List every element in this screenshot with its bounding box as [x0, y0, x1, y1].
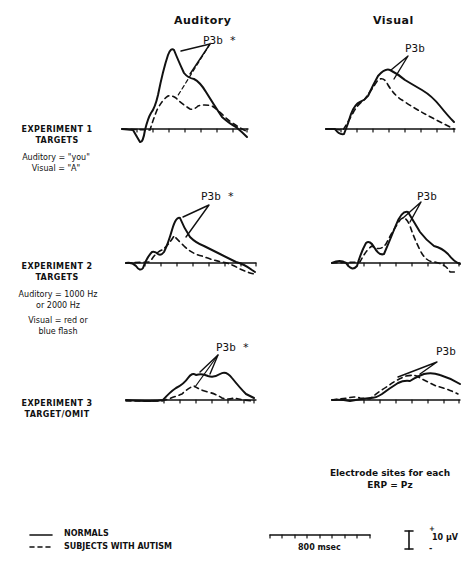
voltage-scale-label: 10 µV	[432, 533, 458, 542]
legend: NORMALS SUBJECTS WITH AUTISM	[30, 527, 172, 553]
electrode-note-line-1: Electrode sites for each	[306, 467, 473, 479]
time-scale-label: 800 msec	[298, 543, 341, 552]
exp3-auditory-panel	[126, 355, 256, 403]
time-scale-bar	[270, 535, 370, 538]
exp1-auditory-autism-line	[122, 96, 246, 131]
exp1-auditory-panel	[122, 44, 248, 142]
legend-item-autism: SUBJECTS WITH AUTISM	[30, 540, 172, 553]
exp2-visual-normals-line	[332, 212, 460, 269]
voltage-scale-plus: +	[429, 525, 435, 533]
electrode-note-line-2: ERP = Pz	[306, 479, 473, 491]
exp2-auditory-normals-line	[126, 218, 255, 272]
exp1-visual-panel	[326, 56, 455, 134]
exp1-auditory-p3b-pointer	[181, 44, 210, 74]
electrode-note: Electrode sites for each ERP = Pz	[306, 467, 473, 491]
exp2-visual-panel	[332, 202, 460, 272]
exp1-visual-normals-line	[326, 70, 454, 135]
exp3-visual-autism-line	[332, 375, 458, 400]
legend-item-normals: NORMALS	[30, 527, 172, 540]
exp2-auditory-autism-line	[126, 236, 254, 274]
legend-label-normals: NORMALS	[64, 527, 109, 540]
voltage-scale-bar	[405, 531, 413, 549]
exp3-visual-p3b-pointer	[398, 362, 437, 377]
exp3-auditory-normals-line	[126, 373, 254, 401]
exp3-auditory-autism-line	[126, 386, 252, 401]
exp1-visual-autism-line	[326, 79, 454, 130]
exp3-visual-panel	[332, 362, 460, 403]
legend-label-autism: SUBJECTS WITH AUTISM	[64, 540, 172, 553]
exp1-auditory-normals-line	[122, 49, 247, 142]
exp2-auditory-panel	[126, 205, 256, 274]
voltage-scale-minus: -	[429, 544, 432, 553]
